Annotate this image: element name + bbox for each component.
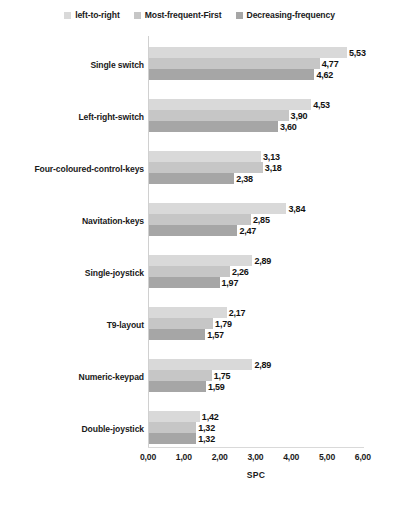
- x-axis-ticks: 0,001,002,003,004,005,006,00: [148, 452, 364, 466]
- bar-row: 3,13: [149, 151, 399, 162]
- bar[interactable]: [149, 422, 196, 433]
- plot-area: Single switch5,534,774,62Left-right-swit…: [0, 36, 399, 448]
- bar-value-label: 1,75: [214, 371, 231, 381]
- legend-item[interactable]: left-to-right: [64, 10, 120, 20]
- x-axis-title: SPC: [148, 470, 364, 480]
- bar-row: 5,53: [149, 47, 399, 58]
- bar[interactable]: [149, 307, 227, 318]
- bar-value-label: 1,97: [222, 278, 239, 288]
- bar-value-label: 4,53: [313, 100, 330, 110]
- bar[interactable]: [149, 370, 212, 381]
- bar-value-label: 2,89: [254, 360, 271, 370]
- bar-row: 1,57: [149, 329, 399, 340]
- bar-value-label: 1,32: [198, 423, 215, 433]
- category-label: Navitation-keys: [82, 195, 144, 247]
- bars-container: 4,533,903,60: [149, 99, 399, 135]
- category-label: Double-joystick: [82, 403, 145, 455]
- bar[interactable]: [149, 329, 205, 340]
- bar-row: 2,17: [149, 307, 399, 318]
- bar-row: 1,97: [149, 277, 399, 288]
- bar-group: Single switch5,534,774,62: [0, 39, 399, 91]
- bars-container: 5,534,774,62: [149, 47, 399, 83]
- bar-row: 3,18: [149, 162, 399, 173]
- bar[interactable]: [149, 203, 286, 214]
- bar[interactable]: [149, 47, 347, 58]
- bar[interactable]: [149, 318, 213, 329]
- x-tick-label: 2,00: [212, 452, 228, 462]
- bar[interactable]: [149, 173, 234, 184]
- legend-label: Decreasing-frequency: [247, 10, 335, 20]
- x-tick-label: 4,00: [283, 452, 299, 462]
- bar-row: 3,60: [149, 121, 399, 132]
- bar[interactable]: [149, 58, 320, 69]
- legend-item[interactable]: Decreasing-frequency: [236, 10, 335, 20]
- bar-row: 2,47: [149, 225, 399, 236]
- bar-group: T9-layout2,171,791,57: [0, 299, 399, 351]
- bar-value-label: 1,59: [208, 382, 225, 392]
- bar[interactable]: [149, 277, 220, 288]
- x-tick-label: 3,00: [247, 452, 263, 462]
- bars-container: 1,421,321,32: [149, 411, 399, 447]
- bar-value-label: 2,17: [229, 308, 246, 318]
- bar-row: 1,75: [149, 370, 399, 381]
- bars-container: 3,133,182,38: [149, 151, 399, 187]
- bar[interactable]: [149, 110, 289, 121]
- bar[interactable]: [149, 255, 252, 266]
- bar-value-label: 2,38: [236, 174, 253, 184]
- bar[interactable]: [149, 225, 237, 236]
- x-tick-label: 6,00: [355, 452, 371, 462]
- x-tick-label: 0,00: [140, 452, 156, 462]
- bar[interactable]: [149, 433, 196, 444]
- bar-group: Navitation-keys3,842,852,47: [0, 195, 399, 247]
- x-tick-label: 1,00: [176, 452, 192, 462]
- bar[interactable]: [149, 266, 230, 277]
- bar-value-label: 3,90: [291, 111, 308, 121]
- category-label: Single switch: [90, 39, 144, 91]
- bar[interactable]: [149, 121, 278, 132]
- category-label: Numeric-keypad: [79, 351, 144, 403]
- legend-swatch-icon: [64, 12, 71, 19]
- legend-swatch-icon: [134, 12, 141, 19]
- bar-value-label: 3,84: [288, 204, 305, 214]
- bars-container: 2,171,791,57: [149, 307, 399, 343]
- bars-container: 2,891,751,59: [149, 359, 399, 395]
- bar-value-label: 3,18: [265, 163, 282, 173]
- category-label: Single-joystick: [85, 247, 144, 299]
- legend-item[interactable]: Most-frequent-First: [134, 10, 222, 20]
- bars-container: 3,842,852,47: [149, 203, 399, 239]
- x-tick-label: 5,00: [319, 452, 335, 462]
- bar[interactable]: [149, 69, 314, 80]
- legend-swatch-icon: [236, 12, 243, 19]
- bars-container: 2,892,261,97: [149, 255, 399, 291]
- bar-value-label: 2,85: [253, 215, 270, 225]
- bar-value-label: 1,79: [215, 319, 232, 329]
- bar-row: 2,89: [149, 255, 399, 266]
- bar-row: 1,32: [149, 433, 399, 444]
- bar-group: Single-joystick2,892,261,97: [0, 247, 399, 299]
- bar-chart: left-to-rightMost-frequent-FirstDecreasi…: [0, 0, 399, 512]
- bar[interactable]: [149, 214, 251, 225]
- bar-value-label: 5,53: [349, 48, 366, 58]
- chart-legend: left-to-rightMost-frequent-FirstDecreasi…: [0, 10, 399, 20]
- category-label: Four-coloured-control-keys: [34, 143, 144, 195]
- bar-row: 2,89: [149, 359, 399, 370]
- bar[interactable]: [149, 359, 252, 370]
- bar[interactable]: [149, 99, 311, 110]
- category-label: T9-layout: [107, 299, 144, 351]
- legend-label: left-to-right: [75, 10, 120, 20]
- bar-value-label: 3,60: [280, 122, 297, 132]
- bar[interactable]: [149, 411, 200, 422]
- bar-group: Numeric-keypad2,891,751,59: [0, 351, 399, 403]
- bar[interactable]: [149, 162, 263, 173]
- bar-row: 4,62: [149, 69, 399, 80]
- bar[interactable]: [149, 381, 206, 392]
- bar-row: 1,59: [149, 381, 399, 392]
- bar-row: 1,79: [149, 318, 399, 329]
- bar-row: 1,32: [149, 422, 399, 433]
- bar-row: 2,85: [149, 214, 399, 225]
- category-label: Left-right-switch: [78, 91, 144, 143]
- bar-value-label: 1,57: [207, 330, 224, 340]
- bar[interactable]: [149, 151, 261, 162]
- bar-row: 2,26: [149, 266, 399, 277]
- bar-value-label: 1,42: [202, 412, 219, 422]
